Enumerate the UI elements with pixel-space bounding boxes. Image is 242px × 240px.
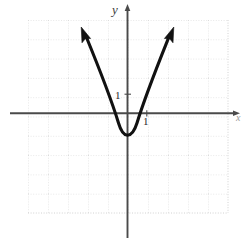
x-axis-label: x xyxy=(235,112,241,123)
y-axis-tick-label-1: 1 xyxy=(115,89,121,101)
y-axis-label: y xyxy=(110,2,118,17)
parabola-graph-figure: y x 1 1 xyxy=(0,0,242,240)
coordinate-plane-svg: y x 1 1 xyxy=(0,0,242,240)
x-axis-tick-label-1: 1 xyxy=(143,115,149,127)
